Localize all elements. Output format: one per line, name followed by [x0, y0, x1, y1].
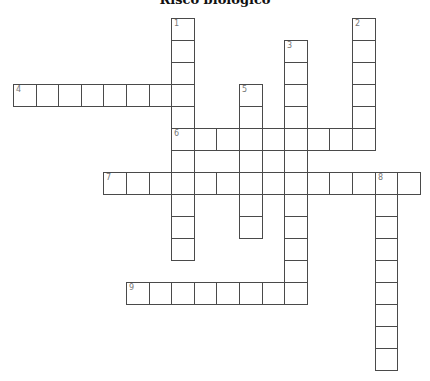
crossword-cell[interactable]: [171, 62, 195, 85]
crossword-cell[interactable]: [239, 282, 263, 305]
crossword-cell[interactable]: [171, 84, 195, 107]
crossword-cell[interactable]: [149, 84, 172, 107]
crossword-cell[interactable]: [284, 260, 308, 283]
crossword-cell[interactable]: [352, 172, 376, 195]
crossword-cell[interactable]: [352, 40, 376, 63]
crossword-cell[interactable]: [375, 216, 398, 239]
crossword-cell[interactable]: 3: [284, 40, 308, 63]
crossword-cell[interactable]: [284, 84, 308, 107]
crossword-cell[interactable]: [36, 84, 59, 107]
crossword-cell[interactable]: [284, 62, 308, 85]
crossword-cell[interactable]: [239, 172, 263, 195]
clue-number: 5: [242, 85, 247, 95]
crossword-cell[interactable]: [375, 260, 398, 283]
crossword-cell[interactable]: [126, 172, 150, 195]
crossword-cell[interactable]: [307, 128, 330, 151]
crossword-cell[interactable]: [375, 238, 398, 261]
crossword-cell[interactable]: [284, 172, 308, 195]
crossword-cell[interactable]: [375, 326, 398, 349]
clue-number: 6: [174, 129, 179, 139]
crossword-cell[interactable]: 4: [13, 84, 37, 107]
crossword-cell[interactable]: [239, 106, 263, 129]
crossword-cell[interactable]: [194, 172, 217, 195]
crossword-cell[interactable]: [171, 106, 195, 129]
crossword-cell[interactable]: [239, 128, 263, 151]
crossword-cell[interactable]: 7: [103, 172, 127, 195]
clue-number: 3: [287, 41, 292, 51]
crossword-cell[interactable]: [284, 150, 308, 173]
crossword-cell[interactable]: [262, 172, 285, 195]
crossword-cell[interactable]: [329, 128, 353, 151]
crossword-cell[interactable]: [375, 194, 398, 217]
crossword-cell[interactable]: 5: [239, 84, 263, 107]
crossword-grid: 162345789: [0, 0, 430, 381]
crossword-cell[interactable]: [262, 282, 285, 305]
crossword-cell[interactable]: [352, 128, 376, 151]
clue-number: 9: [129, 283, 134, 293]
crossword-cell[interactable]: [262, 128, 285, 151]
crossword-cell[interactable]: [103, 84, 127, 107]
crossword-cell[interactable]: [171, 40, 195, 63]
crossword-cell[interactable]: [375, 282, 398, 305]
crossword-cell[interactable]: [171, 282, 195, 305]
crossword-cell[interactable]: [352, 62, 376, 85]
crossword-cell[interactable]: [149, 282, 172, 305]
crossword-cell[interactable]: [239, 216, 263, 239]
crossword-cell[interactable]: [307, 172, 330, 195]
crossword-cell[interactable]: [194, 282, 217, 305]
clue-number: 8: [378, 173, 383, 183]
crossword-cell[interactable]: [81, 84, 104, 107]
crossword-cell[interactable]: [171, 238, 195, 261]
crossword-cell[interactable]: [171, 150, 195, 173]
crossword-cell[interactable]: [284, 238, 308, 261]
crossword-cell[interactable]: [284, 128, 308, 151]
crossword-cell[interactable]: [397, 172, 421, 195]
clue-number: 4: [16, 85, 21, 95]
crossword-cell[interactable]: [239, 194, 263, 217]
crossword-cell[interactable]: [216, 128, 240, 151]
crossword-cell[interactable]: [375, 304, 398, 327]
crossword-cell[interactable]: 6: [171, 128, 195, 151]
crossword-cell[interactable]: [216, 172, 240, 195]
crossword-cell[interactable]: [171, 216, 195, 239]
crossword-cell[interactable]: 1: [171, 18, 195, 41]
crossword-cell[interactable]: [171, 194, 195, 217]
clue-number: 1: [174, 19, 179, 29]
crossword-cell[interactable]: [284, 106, 308, 129]
crossword-cell[interactable]: [58, 84, 82, 107]
clue-number: 7: [106, 173, 111, 183]
clue-number: 2: [355, 19, 360, 29]
crossword-cell[interactable]: 2: [352, 18, 376, 41]
crossword-cell[interactable]: [149, 172, 172, 195]
crossword-cell[interactable]: [352, 106, 376, 129]
crossword-cell[interactable]: [171, 172, 195, 195]
crossword-cell[interactable]: 8: [375, 172, 398, 195]
crossword-cell[interactable]: [284, 282, 308, 305]
crossword-cell[interactable]: [194, 128, 217, 151]
crossword-cell[interactable]: [375, 348, 398, 371]
crossword-cell[interactable]: [126, 84, 150, 107]
crossword-cell[interactable]: 9: [126, 282, 150, 305]
crossword-cell[interactable]: [329, 172, 353, 195]
crossword-cell[interactable]: [352, 84, 376, 107]
crossword-cell[interactable]: [284, 216, 308, 239]
crossword-cell[interactable]: [239, 150, 263, 173]
crossword-cell[interactable]: [284, 194, 308, 217]
crossword-cell[interactable]: [216, 282, 240, 305]
